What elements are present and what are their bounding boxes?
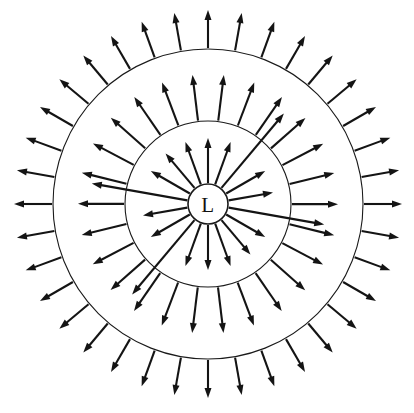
arrow-shaft: [218, 287, 223, 325]
arrow-head-icon: [328, 201, 338, 208]
arrow-head-icon: [17, 233, 27, 240]
arrow-shaft: [25, 231, 55, 236]
arrow-shaft: [165, 90, 178, 126]
outer-ring-rays-arrow: [173, 13, 181, 50]
arrow-shaft: [100, 185, 188, 200]
arrow-shaft: [256, 273, 278, 304]
arrow-shaft: [282, 243, 316, 261]
arrow-head-icon: [17, 169, 27, 176]
arrow-shaft: [290, 175, 327, 184]
arrow-shaft: [88, 62, 107, 85]
arrow-head-icon: [224, 142, 231, 153]
inner-ring-rays-arrow: [238, 283, 254, 326]
source-rays-arrow: [185, 224, 200, 266]
inner-ring-rays-arrow: [111, 118, 145, 149]
arrow-head-icon: [389, 169, 399, 176]
inner-ring-rays-arrow: [134, 273, 160, 311]
arrow-shaft: [328, 84, 351, 103]
outer-ring-rays-arrow: [17, 169, 54, 177]
outer-ring-rays-arrow: [362, 231, 399, 239]
arrow-head-icon: [366, 293, 376, 301]
outer-ring-rays-arrow: [111, 339, 130, 372]
inner-ring-rays-arrow: [190, 75, 198, 121]
inner-ring-rays-arrow: [93, 143, 134, 164]
arrow-head-icon: [255, 229, 265, 237]
arrow-head-icon: [82, 229, 93, 236]
arrow-head-icon: [190, 323, 197, 333]
arrow-head-icon: [380, 264, 391, 271]
arrow-shaft: [47, 282, 73, 297]
arrow-shaft: [238, 283, 251, 319]
arrow-head-icon: [268, 22, 275, 33]
arrow-shaft: [271, 260, 299, 285]
arrow-shaft: [33, 140, 61, 150]
source-rays-arrow: [185, 142, 200, 184]
arrow-head-icon: [263, 191, 273, 198]
source-rays-arrow: [205, 138, 212, 183]
arrow-head-icon: [247, 315, 254, 326]
outer-ring-rays-arrow: [286, 339, 305, 372]
outer-ring-rays-arrow: [40, 282, 73, 301]
outer-ring-rays-arrow: [83, 55, 107, 84]
arrow-head-icon: [247, 83, 254, 94]
arrow-head-icon: [205, 138, 212, 148]
arrow-head-icon: [26, 138, 37, 145]
arrow-shaft: [261, 351, 271, 379]
arrow-shaft: [90, 175, 127, 184]
arrow-shaft: [235, 358, 240, 388]
arrow-head-icon: [151, 229, 161, 237]
arrow-head-icon: [219, 75, 226, 85]
arrow-head-icon: [142, 376, 149, 387]
outer-ring-rays-arrow: [26, 257, 62, 270]
arrow-head-icon: [237, 13, 244, 23]
inner-ring-rays-arrow: [218, 287, 226, 333]
outer-ring-rays-arrow: [111, 36, 130, 69]
arrow-shaft: [139, 273, 161, 304]
arrow-head-icon: [26, 264, 37, 271]
arrow-shaft: [66, 84, 89, 103]
inner-ring-rays-arrow: [292, 201, 338, 208]
arrow-head-icon: [78, 200, 88, 207]
outer-ring-rays-arrow: [308, 55, 332, 84]
source-rays-arrow: [229, 191, 273, 201]
outer-ring-rays-arrow: [235, 13, 243, 50]
arrow-head-icon: [314, 219, 324, 226]
arrow-shaft: [218, 83, 223, 121]
arrow-shaft: [100, 243, 134, 261]
outer-ring-rays-arrow: [142, 351, 155, 387]
arrow-shaft: [222, 120, 279, 188]
outer-ring-rays-arrow: [173, 358, 181, 395]
inner-ring-rays-arrow: [282, 243, 323, 264]
arrow-shaft: [115, 339, 130, 365]
inner-ring-rays-arrow: [78, 200, 124, 207]
arrow-shaft: [343, 111, 369, 126]
arrow-shaft: [139, 104, 161, 135]
outer-ring-rays-arrow: [364, 201, 402, 208]
arrow-head-icon: [134, 97, 143, 107]
arrow-head-icon: [389, 233, 399, 240]
inner-ring-rays-arrow: [218, 75, 226, 121]
source-rays-arrow: [215, 142, 230, 184]
arrow-head-icon: [14, 201, 24, 208]
arrow-shaft: [88, 324, 107, 347]
outer-ring-rays-arrow: [286, 36, 305, 69]
outer-ring-rays-arrow: [205, 10, 212, 48]
arrow-shaft: [286, 339, 301, 365]
arrow-shaft: [215, 150, 228, 185]
outer-ring-rays-arrow: [328, 79, 357, 103]
outer-ring-rays-arrow: [59, 79, 88, 103]
outer-ring-rays-arrow: [343, 282, 376, 301]
outer-ring-rays-arrow: [362, 169, 399, 177]
arrow-shaft: [66, 304, 89, 323]
arrow-shaft: [115, 43, 130, 69]
arrow-shaft: [144, 351, 154, 379]
outer-ring-rays-arrow: [261, 351, 274, 387]
arrow-shaft: [362, 172, 392, 177]
arrow-head-icon: [366, 107, 376, 115]
arrow-shaft: [271, 123, 299, 148]
arrow-shaft: [286, 43, 301, 69]
arrow-shaft: [362, 231, 392, 236]
arrow-shaft: [33, 257, 61, 267]
inner-ring-rays-arrow: [82, 224, 127, 236]
outer-ring-rays-arrow: [83, 324, 107, 353]
